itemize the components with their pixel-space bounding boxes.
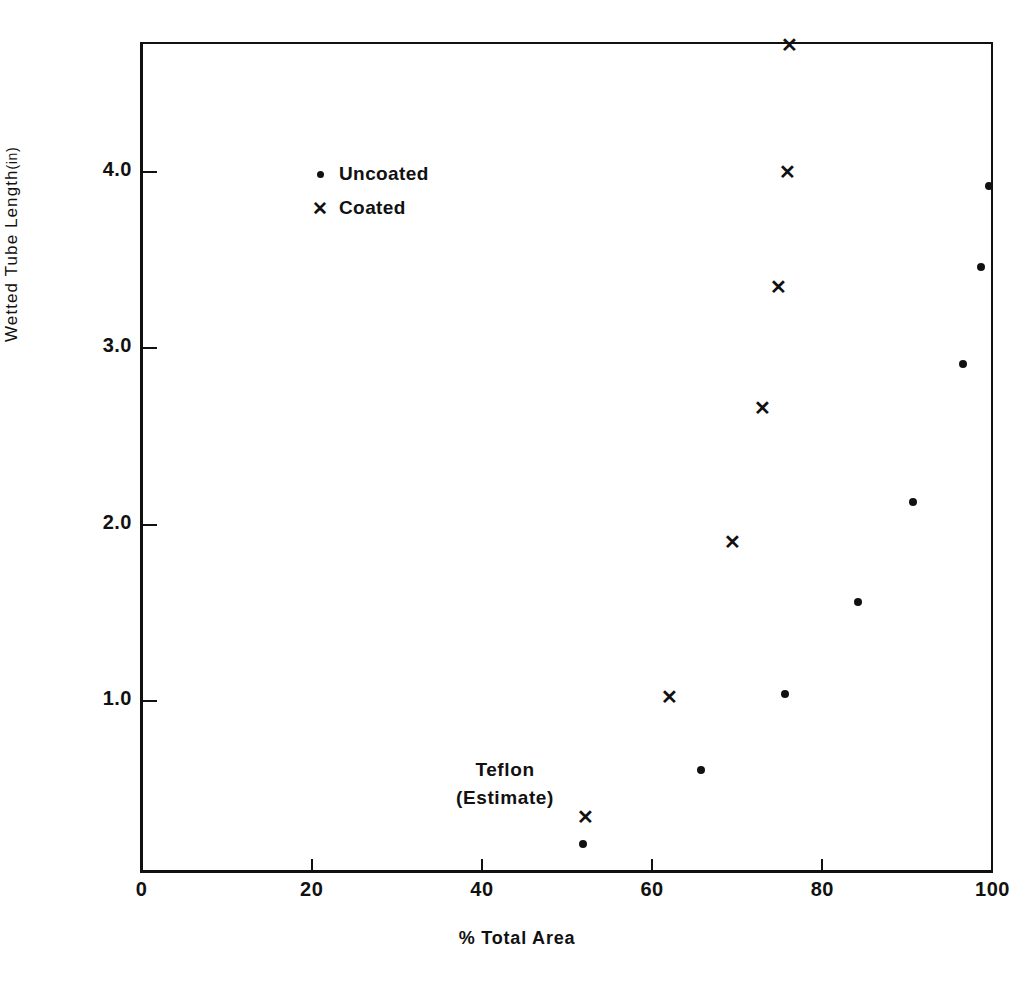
x-axis-tick-label: 100 [953, 878, 1033, 901]
y-axis-tick [142, 347, 157, 349]
y-axis-title-main: Wetted Tube Length [2, 169, 21, 342]
data-point-uncoated [781, 690, 789, 698]
x-axis-tick [651, 859, 653, 873]
data-point-coated: ✕ [780, 36, 798, 54]
x-axis-tick-label: 20 [272, 878, 352, 901]
legend-label-coated: Coated [335, 197, 406, 219]
plot-area-frame [140, 42, 993, 873]
data-point-uncoated [985, 182, 993, 190]
data-point-coated: ✕ [661, 688, 679, 706]
x-axis-tick-label: 40 [442, 878, 522, 901]
data-point-coated: ✕ [754, 399, 772, 417]
x-axis-title: % Total Area [0, 928, 1034, 949]
data-point-uncoated [977, 263, 985, 271]
data-point-uncoated [959, 360, 967, 368]
y-axis-tick [142, 171, 157, 173]
data-point-uncoated [854, 598, 862, 606]
y-axis-title-unit: (in) [4, 147, 20, 170]
y-axis-tick-label: 1.0 [60, 687, 132, 710]
x-axis-tick [481, 859, 483, 873]
legend-item-coated: ✕ Coated [305, 191, 429, 225]
x-axis-tick-label: 60 [612, 878, 692, 901]
x-axis-tick-label: 80 [782, 878, 862, 901]
teflon-annotation: Teflon (Estimate) [410, 756, 600, 811]
y-axis-tick-label: 4.0 [60, 158, 132, 181]
x-axis-tick [821, 859, 823, 873]
scatter-chart-figure: 1.02.03.04.0 020406080100 ✕✕✕✕✕✕✕ Uncoat… [0, 0, 1034, 992]
data-point-uncoated [697, 766, 705, 774]
legend-label-uncoated: Uncoated [335, 163, 429, 185]
x-axis-tick [311, 859, 313, 873]
data-point-coated: ✕ [769, 278, 787, 296]
data-point-uncoated [909, 498, 917, 506]
y-axis-tick-label: 3.0 [60, 334, 132, 357]
x-axis-tick-label: 0 [102, 878, 182, 901]
data-point-uncoated [579, 840, 587, 848]
data-point-coated: ✕ [778, 163, 796, 181]
data-point-coated: ✕ [723, 533, 741, 551]
y-axis-tick [142, 700, 157, 702]
annotation-line-1: Teflon [410, 756, 600, 784]
uncoated-dot-icon [305, 171, 335, 178]
y-axis-tick-label: 2.0 [60, 511, 132, 534]
coated-cross-icon: ✕ [305, 197, 335, 220]
y-axis-title: Wetted Tube Length(in) [2, 0, 22, 342]
legend-item-uncoated: Uncoated [305, 157, 429, 191]
y-axis-tick [142, 524, 157, 526]
annotation-line-2: (Estimate) [410, 784, 600, 812]
chart-legend: Uncoated ✕ Coated [305, 157, 429, 225]
